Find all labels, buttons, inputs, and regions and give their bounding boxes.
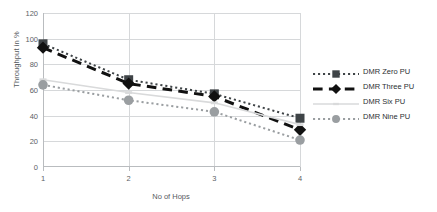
x-tick-label: 1 (33, 174, 53, 183)
x-tick-mark (129, 167, 130, 171)
y-tick-label: 0 (14, 163, 38, 172)
y-tick-label: 40 (14, 111, 38, 120)
legend-label: DMR Three PU (360, 82, 414, 91)
legend: DMR Zero PU DMR Three PU DMR Six PU DMR … (312, 64, 436, 124)
legend-item-dmr-six-pu[interactable]: DMR Six PU (312, 94, 436, 109)
series-layer (43, 13, 300, 167)
x-tick-mark (214, 167, 215, 171)
y-tick-label: 120 (14, 9, 38, 18)
series-dmr-zero-pu (39, 39, 305, 122)
x-tick-label: 4 (290, 174, 310, 183)
plot-area (43, 13, 300, 167)
x-tick-label: 3 (204, 174, 224, 183)
legend-key-dmr-six-pu (312, 96, 360, 108)
series-dmr-six-pu (40, 78, 304, 126)
x-tick-mark (300, 167, 301, 171)
legend-label: DMR Zero PU (360, 67, 410, 76)
throughput-line-chart: Throughput in % 0 20 40 60 80 100 120 1 … (0, 0, 437, 212)
legend-item-dmr-nine-pu[interactable]: DMR Nine PU (312, 109, 436, 124)
legend-label: DMR Six PU (360, 97, 405, 106)
x-tick-label: 2 (119, 174, 139, 183)
y-tick-label: 80 (14, 60, 38, 69)
y-tick-label: 20 (14, 137, 38, 146)
x-tick-mark (43, 167, 44, 171)
y-tick-label: 100 (14, 34, 38, 43)
legend-label: DMR Nine PU (360, 112, 410, 121)
legend-key-dmr-three-pu (312, 81, 360, 93)
legend-key-dmr-zero-pu (312, 66, 360, 78)
legend-item-dmr-three-pu[interactable]: DMR Three PU (312, 79, 436, 94)
series-dmr-three-pu (37, 41, 306, 136)
legend-key-dmr-nine-pu (312, 111, 360, 123)
x-axis-title: No of Hops (40, 192, 302, 201)
legend-item-dmr-zero-pu[interactable]: DMR Zero PU (312, 64, 436, 79)
y-tick-label: 60 (14, 86, 38, 95)
